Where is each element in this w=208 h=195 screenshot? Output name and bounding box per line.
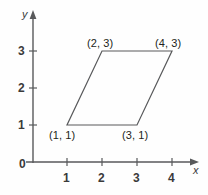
x-tick-label-1: 1 bbox=[63, 172, 70, 184]
x-tick-label-3: 3 bbox=[133, 172, 140, 184]
parallelogram-shape bbox=[67, 51, 172, 125]
plot-canvas bbox=[0, 0, 208, 195]
vertex-label-1-1: (1, 1) bbox=[49, 129, 75, 141]
origin-label: 0 bbox=[19, 158, 26, 170]
vertex-label-3-1: (3, 1) bbox=[122, 129, 148, 141]
x-axis bbox=[26, 159, 199, 166]
x-tick-label-2: 2 bbox=[98, 172, 105, 184]
y-tick-label-3: 3 bbox=[18, 45, 25, 57]
coordinate-plane-figure: y x 0 1 2 3 4 1 2 3 (2, 3) (4, 3) (1, 1)… bbox=[0, 0, 208, 195]
vertex-label-2-3: (2, 3) bbox=[87, 37, 113, 49]
y-tick-label-2: 2 bbox=[18, 82, 25, 94]
vertex-label-4-3: (4, 3) bbox=[155, 37, 181, 49]
y-axis bbox=[30, 10, 37, 163]
x-axis-label: x bbox=[193, 164, 199, 176]
y-axis-label: y bbox=[22, 8, 28, 20]
x-tick-label-4: 4 bbox=[168, 172, 175, 184]
y-tick-label-1: 1 bbox=[18, 119, 25, 131]
